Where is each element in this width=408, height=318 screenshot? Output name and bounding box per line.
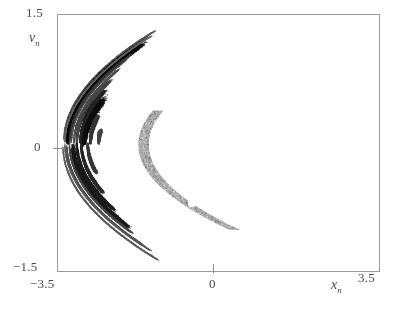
x-axis-title: xn xyxy=(331,277,342,295)
y-axis-zero-label: 0 xyxy=(34,139,41,155)
upper-white-dot xyxy=(240,83,248,91)
x-axis-zero-tick xyxy=(213,264,214,273)
x-axis-zero-label: 0 xyxy=(209,276,216,292)
phase-portrait-figure: 1.5 0 −1.5 −3.5 0 3.5 vn xn xyxy=(0,0,408,318)
x-axis-max-label: 3.5 xyxy=(358,270,375,286)
y-axis-title-subscript: n xyxy=(35,38,40,48)
plot-area xyxy=(57,14,380,272)
x-axis-min-label: −3.5 xyxy=(30,276,54,292)
y-axis-max-label: 1.5 xyxy=(26,5,43,21)
y-axis-min-label: −1.5 xyxy=(13,259,37,275)
y-axis-title: vn xyxy=(29,30,40,48)
attractor-scatter-canvas xyxy=(58,15,379,271)
x-axis-title-subscript: n xyxy=(337,285,342,295)
y-axis-zero-tick xyxy=(53,148,62,149)
